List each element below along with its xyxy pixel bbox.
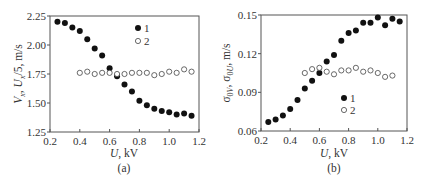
data-point-series-2 — [368, 68, 373, 73]
data-point-series-2 — [361, 69, 366, 74]
data-point-series-2 — [375, 70, 380, 75]
y-tick-label: 0.15 — [238, 9, 258, 21]
data-point-series-1 — [324, 58, 330, 64]
legend-a: 1 2 — [135, 22, 150, 47]
data-point-series-1 — [122, 81, 128, 87]
x-tick-label: 1.2 — [192, 135, 206, 147]
data-point-series-1 — [77, 28, 83, 34]
data-point-series-1 — [331, 52, 337, 58]
x-tick-label: 0.4 — [73, 135, 87, 147]
data-point-series-1 — [375, 15, 381, 21]
data-point-series-2 — [159, 71, 164, 76]
data-point-series-2 — [310, 67, 315, 72]
data-point-series-1 — [280, 113, 286, 119]
x-tick-label: 0.6 — [313, 134, 327, 146]
data-point-series-2 — [383, 74, 388, 79]
data-point-series-2 — [353, 65, 358, 70]
data-point-series-1 — [136, 98, 142, 104]
data-point-series-1 — [181, 110, 187, 116]
data-point-series-1 — [316, 70, 322, 76]
data-point-series-2 — [77, 70, 82, 75]
data-point-series-1 — [295, 97, 301, 103]
data-point-series-2 — [182, 67, 187, 72]
legend-label-2: 2 — [144, 35, 150, 47]
x-tick-label: 0.8 — [133, 135, 147, 147]
y-tick-label: 2.25 — [27, 10, 47, 22]
x-tick-label: 1.0 — [371, 134, 385, 146]
legend-marker-filled-icon — [341, 95, 347, 101]
data-point-series-1 — [99, 52, 105, 58]
legend-marker-filled-icon — [135, 25, 141, 31]
y-tick-label: 1.50 — [27, 97, 47, 109]
plot-area-b: 0.20.40.60.81.01.20.060.090.120.15 — [238, 9, 414, 146]
x-axis-label-b: U, kV — [320, 147, 349, 160]
data-point-series-2 — [317, 65, 322, 70]
data-point-series-1 — [84, 36, 90, 42]
data-point-series-2 — [302, 70, 307, 75]
data-point-series-1 — [287, 106, 293, 112]
data-point-series-2 — [331, 72, 336, 77]
data-point-series-1 — [360, 20, 366, 26]
data-point-series-2 — [100, 70, 105, 75]
data-point-series-1 — [159, 108, 165, 114]
chart-panel-b: 0.20.40.60.81.01.20.060.090.120.15 σ0V, … — [220, 9, 414, 175]
y-tick-label: 0.06 — [238, 125, 258, 137]
data-point-series-1 — [273, 116, 279, 122]
x-axis-label-a: U, kV — [110, 147, 139, 160]
data-point-series-1 — [189, 113, 195, 119]
x-tick-label: 0.6 — [103, 135, 117, 147]
data-point-series-2 — [189, 69, 194, 74]
panel-label-b: (b) — [327, 162, 341, 175]
data-point-series-1 — [382, 22, 388, 28]
data-point-series-2 — [390, 73, 395, 78]
data-point-series-2 — [174, 70, 179, 75]
data-point-series-1 — [62, 20, 68, 26]
data-point-series-1 — [92, 45, 98, 51]
data-point-series-2 — [129, 70, 134, 75]
x-tick-label: 1.0 — [162, 135, 176, 147]
data-point-series-1 — [346, 30, 352, 36]
y-tick-label: 0.09 — [238, 86, 258, 98]
y-axis-label-a: Vx, Ux/5, m/s — [12, 44, 27, 104]
legend-marker-open-icon — [341, 107, 346, 112]
x-tick-label: 1.2 — [400, 134, 414, 146]
data-point-series-2 — [122, 71, 127, 76]
legend-label-1: 1 — [144, 22, 150, 34]
data-point-series-1 — [389, 16, 395, 22]
data-point-series-2 — [152, 73, 157, 78]
plot-area-a: 0.20.40.60.81.01.21.251.501.752.002.25 — [27, 10, 206, 147]
svg-text:σ0V, σ0U, m/s: σ0V, σ0U, m/s — [220, 43, 235, 103]
chart-panel-a: 0.20.40.60.81.01.21.251.501.752.002.25 V… — [12, 10, 206, 175]
data-point-series-1 — [397, 18, 403, 24]
data-point-series-2 — [85, 69, 90, 74]
data-point-series-1 — [265, 119, 271, 125]
data-point-series-2 — [324, 69, 329, 74]
data-point-series-1 — [129, 88, 135, 94]
data-point-series-1 — [353, 27, 359, 33]
data-point-series-1 — [54, 19, 60, 25]
svg-text:Vx, Ux/5, m/s: Vx, Ux/5, m/s — [12, 44, 27, 104]
data-point-series-2 — [137, 70, 142, 75]
data-point-series-1 — [144, 102, 150, 108]
data-point-series-1 — [166, 109, 172, 115]
data-point-series-1 — [302, 85, 308, 91]
panel-label-a: (a) — [118, 162, 131, 175]
y-tick-label: 1.25 — [27, 126, 47, 138]
data-point-series-2 — [107, 70, 112, 75]
data-point-series-1 — [309, 78, 315, 84]
x-tick-label: 0.4 — [283, 134, 297, 146]
y-tick-label: 0.12 — [238, 48, 257, 60]
data-point-series-2 — [144, 70, 149, 75]
legend-b: 1 2 — [341, 92, 356, 116]
legend-label-2: 2 — [350, 104, 356, 116]
data-point-series-2 — [339, 68, 344, 73]
data-point-series-1 — [338, 38, 344, 44]
data-point-series-1 — [174, 112, 180, 118]
data-point-series-2 — [114, 71, 119, 76]
data-point-series-2 — [167, 69, 172, 74]
y-axis-label-b: σ0V, σ0U, m/s — [220, 43, 235, 103]
data-point-series-2 — [92, 71, 97, 76]
y-tick-label: 2.00 — [27, 39, 47, 51]
legend-label-1: 1 — [350, 92, 356, 104]
y-tick-label: 1.75 — [27, 68, 47, 80]
